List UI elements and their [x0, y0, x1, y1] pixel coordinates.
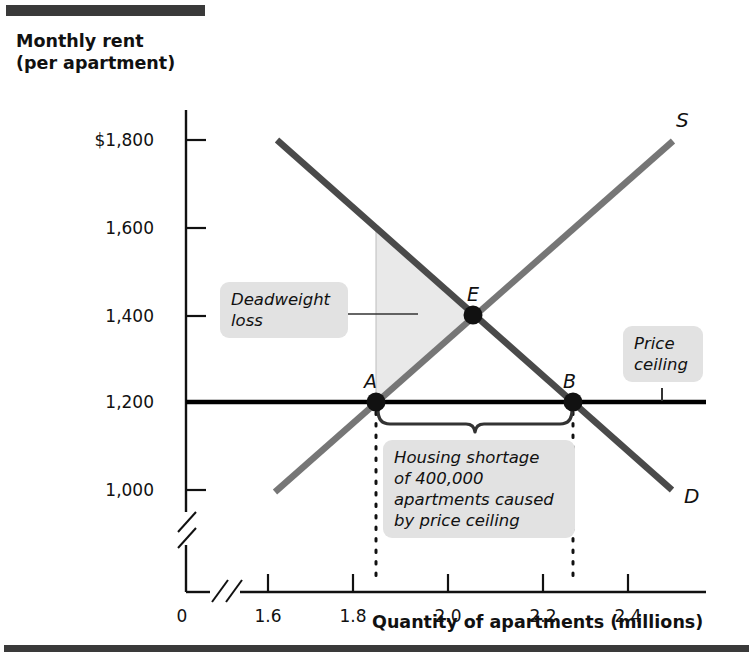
y-axis-break-mark-upper: [178, 512, 196, 532]
point-marker-b: [564, 393, 583, 412]
x-tick-label-1-6: 1.6: [238, 606, 298, 626]
y-tick-label-1400: 1,400: [62, 306, 154, 326]
supply-curve-label: S: [676, 108, 689, 132]
point-label-a: A: [364, 370, 377, 392]
y-tick-label-1800: $1,800: [62, 130, 154, 150]
y-tick-label-1200: 1,200: [62, 392, 154, 412]
demand-curve-label: D: [684, 484, 699, 508]
x-tick-label-1-8: 1.8: [323, 606, 383, 626]
y-tick-label-1000: 1,000: [62, 480, 154, 500]
deadweight-loss-callout: Deadweight loss: [220, 282, 348, 338]
point-label-e: E: [467, 283, 479, 305]
point-marker-a: [367, 393, 386, 412]
x-tick-label-2-0: 2.0: [418, 606, 478, 626]
x-axis-break-mark-left: [212, 580, 228, 602]
shortage-brace: [378, 410, 572, 432]
x-tick-label-2-4: 2.4: [598, 606, 658, 626]
axis-origin-label: 0: [152, 606, 212, 626]
point-marker-e: [464, 306, 483, 325]
y-tick-label-1600: 1,600: [62, 218, 154, 238]
x-axis-break-mark-right: [226, 580, 242, 602]
figure-container: Monthly rent (per apartment) Quantity of…: [0, 0, 753, 672]
price-ceiling-callout: Price ceiling: [623, 326, 703, 382]
point-label-b: B: [563, 370, 576, 392]
housing-shortage-callout: Housing shortage of 400,000 apartments c…: [383, 440, 575, 538]
x-tick-label-2-2: 2.2: [513, 606, 573, 626]
deadweight-loss-region: [376, 228, 473, 402]
